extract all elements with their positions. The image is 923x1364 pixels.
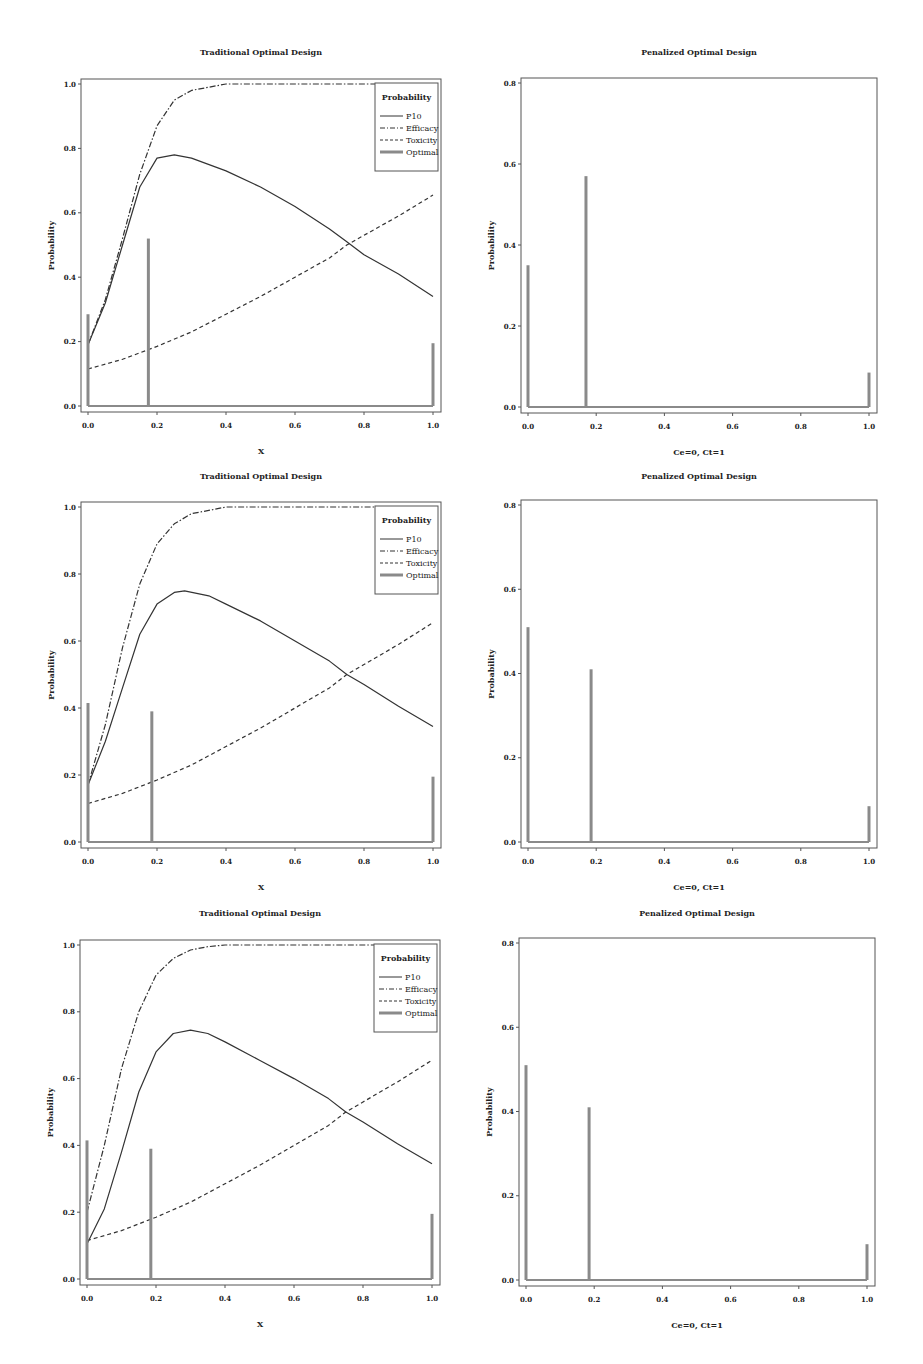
series-line-toxicity — [88, 623, 433, 804]
legend-label: Toxicity — [406, 559, 438, 568]
x-tick-label: 0.0 — [522, 857, 534, 866]
y-tick-label: 0.0 — [64, 402, 76, 411]
x-tick-label: 1.0 — [426, 1294, 438, 1303]
y-tick-label: 0.6 — [64, 637, 76, 646]
y-axis-label: Probability — [46, 650, 56, 700]
x-tick-label: 0.2 — [588, 1295, 600, 1304]
series-line-toxicity — [88, 195, 433, 369]
legend-label: Toxicity — [405, 997, 437, 1006]
x-tick-label: 1.0 — [863, 422, 875, 431]
plot-frame — [519, 938, 875, 1286]
x-axis-label: X — [258, 882, 265, 892]
legend-label: P10 — [406, 112, 422, 121]
y-tick-label: 0.2 — [63, 1208, 75, 1217]
x-tick-label: 0.8 — [357, 1294, 369, 1303]
x-tick-label: 0.8 — [795, 422, 807, 431]
chart-panel-5: Traditional Optimal Design0.00.20.40.60.… — [45, 908, 440, 1329]
x-tick-label: 0.6 — [289, 857, 301, 866]
series-line-p10 — [88, 591, 433, 785]
chart-panel-4: Penalized Optimal Design0.00.20.40.60.80… — [486, 471, 877, 892]
x-tick-label: 0.8 — [795, 857, 807, 866]
y-tick-label: 1.0 — [63, 941, 75, 950]
x-tick-label: 0.4 — [219, 1294, 231, 1303]
legend-label: Toxicity — [406, 136, 438, 145]
x-tick-label: 0.6 — [727, 857, 739, 866]
x-tick-label: 0.2 — [590, 422, 602, 431]
x-tick-label: 0.0 — [520, 1295, 532, 1304]
plot-frame — [521, 500, 877, 848]
y-tick-label: 0.2 — [64, 771, 76, 780]
chart-title: Penalized Optimal Design — [641, 471, 757, 481]
y-tick-label: 0.4 — [63, 1141, 75, 1150]
y-tick-label: 0.6 — [504, 160, 516, 169]
y-tick-label: 0.2 — [502, 1191, 514, 1200]
y-tick-label: 0.2 — [504, 322, 516, 331]
legend-label: Optimal — [406, 148, 439, 157]
y-tick-label: 0.0 — [63, 1275, 75, 1284]
chart-title: Penalized Optimal Design — [641, 47, 757, 57]
chart-title: Traditional Optimal Design — [200, 47, 322, 57]
series-line-p10 — [88, 155, 433, 345]
chart-title: Penalized Optimal Design — [639, 908, 755, 918]
y-axis-label: Probability — [45, 1087, 55, 1137]
chart-panel-6: Penalized Optimal Design0.00.20.40.60.80… — [484, 908, 875, 1330]
x-tick-label: 0.0 — [522, 422, 534, 431]
x-tick-label: 0.6 — [289, 421, 301, 430]
legend-label: Optimal — [406, 571, 439, 580]
legend-title: Probability — [381, 953, 431, 963]
figure: Traditional Optimal Design0.00.20.40.60.… — [0, 0, 923, 1364]
chart-title: Traditional Optimal Design — [200, 471, 322, 481]
legend-title: Probability — [382, 92, 432, 102]
x-axis-label: X — [258, 446, 265, 456]
y-tick-label: 0.8 — [502, 939, 514, 948]
x-tick-label: 1.0 — [427, 421, 439, 430]
x-tick-label: 0.2 — [151, 857, 163, 866]
x-tick-label: 0.8 — [358, 857, 370, 866]
y-tick-label: 0.0 — [504, 838, 516, 847]
x-tick-label: 0.2 — [151, 421, 163, 430]
y-tick-label: 0.4 — [64, 273, 76, 282]
y-tick-label: 0.6 — [64, 208, 76, 217]
y-tick-label: 1.0 — [64, 503, 76, 512]
y-tick-label: 0.2 — [64, 337, 76, 346]
y-tick-label: 0.8 — [63, 1007, 75, 1016]
y-axis-label: Probability — [486, 649, 496, 699]
series-line-toxicity — [87, 1060, 432, 1240]
y-tick-label: 0.6 — [502, 1023, 514, 1032]
x-tick-label: 0.0 — [82, 857, 94, 866]
y-tick-label: 0.8 — [64, 144, 76, 153]
y-axis-label: Probability — [486, 220, 496, 270]
legend: ProbabilityP10EfficacyToxicityOptimal — [375, 506, 439, 594]
legend-label: Efficacy — [405, 985, 438, 994]
y-tick-label: 0.4 — [504, 241, 516, 250]
x-tick-label: 0.8 — [358, 421, 370, 430]
x-tick-label: 0.8 — [793, 1295, 805, 1304]
x-tick-label: 0.2 — [590, 857, 602, 866]
y-tick-label: 0.0 — [502, 1276, 514, 1285]
y-axis-label: Probability — [484, 1087, 494, 1137]
x-tick-label: 0.0 — [81, 1294, 93, 1303]
x-tick-label: 0.4 — [220, 421, 232, 430]
legend: ProbabilityP10EfficacyToxicityOptimal — [375, 83, 439, 171]
x-tick-label: 1.0 — [863, 857, 875, 866]
x-tick-label: 0.4 — [658, 857, 670, 866]
y-tick-label: 1.0 — [64, 80, 76, 89]
x-tick-label: 0.6 — [725, 1295, 737, 1304]
y-tick-label: 0.4 — [502, 1107, 514, 1116]
y-tick-label: 0.8 — [504, 501, 516, 510]
chart-title: Traditional Optimal Design — [199, 908, 321, 918]
y-tick-label: 0.0 — [64, 838, 76, 847]
x-axis-label: Ce=0, Ct=1 — [673, 447, 725, 457]
y-tick-label: 0.8 — [64, 570, 76, 579]
y-tick-label: 0.2 — [504, 753, 516, 762]
x-tick-label: 0.6 — [288, 1294, 300, 1303]
series-line-p10 — [87, 1030, 432, 1244]
y-tick-label: 0.4 — [504, 669, 516, 678]
chart-panel-1: Traditional Optimal Design0.00.20.40.60.… — [46, 47, 441, 456]
x-tick-label: 0.4 — [656, 1295, 668, 1304]
legend-label: Efficacy — [406, 547, 439, 556]
x-tick-label: 0.4 — [658, 422, 670, 431]
x-axis-label: Ce=0, Ct=1 — [671, 1320, 723, 1330]
x-tick-label: 1.0 — [861, 1295, 873, 1304]
y-tick-label: 0.4 — [64, 704, 76, 713]
